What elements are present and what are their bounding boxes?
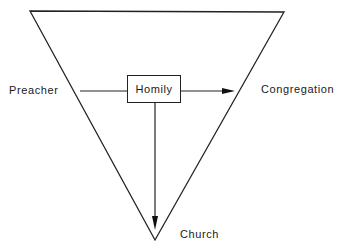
congregation-label: Congregation xyxy=(261,83,334,95)
homily-node: Homily xyxy=(127,75,181,103)
church-arrowhead-icon xyxy=(152,216,158,230)
church-label: Church xyxy=(180,228,219,240)
diagram-canvas xyxy=(0,0,341,251)
homily-label: Homily xyxy=(135,83,172,95)
preacher-label: Preacher xyxy=(9,84,58,96)
inverted-triangle xyxy=(30,11,284,240)
congregation-arrowhead-icon xyxy=(222,88,235,94)
